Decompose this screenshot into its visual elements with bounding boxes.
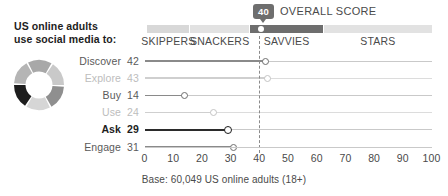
row-value-engage: 31 [110,141,139,153]
x-tick-100: 100 [423,152,441,164]
row-value-bar [145,112,214,114]
row-value-explore: 43 [110,72,139,84]
row-value-bar [145,129,228,131]
x-tick-90: 90 [397,152,409,164]
row-marker-buy[interactable] [181,92,188,99]
row-marker-use[interactable] [210,109,217,116]
x-tick-80: 80 [368,152,380,164]
x-tick-50: 50 [282,152,294,164]
reference-line [259,36,260,153]
x-tick-70: 70 [339,152,351,164]
chart-root: US online adults use social media to: 40… [0,0,448,196]
row-marker-explore[interactable] [264,75,271,82]
row-value-ask: 29 [110,123,139,135]
row-value-discover: 42 [110,55,139,67]
row-value-bar [145,95,185,97]
row-value-buy: 14 [110,89,139,101]
base-note: Base: 60,049 US online adults (18+) [0,174,448,185]
row-value-use: 24 [110,106,139,118]
x-tick-0: 0 [142,152,148,164]
x-tick-10: 10 [167,152,179,164]
row-marker-ask[interactable] [224,126,232,134]
x-tick-60: 60 [311,152,323,164]
row-value-bar [145,60,266,62]
x-tick-40: 40 [253,152,265,164]
x-axis-line [145,147,432,148]
x-tick-20: 20 [196,152,208,164]
row-value-bar [145,77,268,79]
x-tick-30: 30 [225,152,237,164]
row-marker-discover[interactable] [262,58,269,65]
dot-plot: Discover42Explore43Buy14Use24Ask29Engage… [0,0,448,196]
